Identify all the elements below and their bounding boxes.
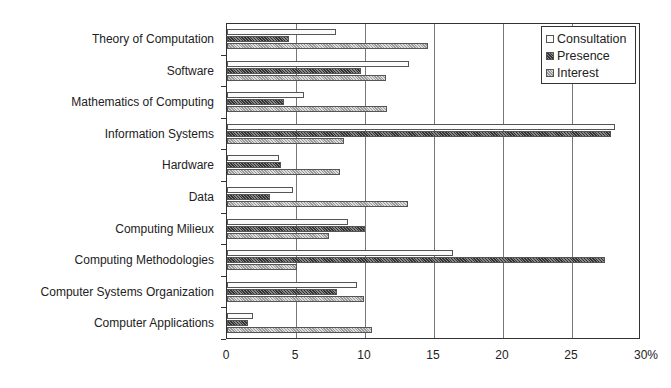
legend-item-interest: Interest: [546, 64, 631, 81]
bar-consultation: [227, 61, 409, 67]
legend-item-consultation: Consultation: [546, 30, 631, 47]
y-tick: [221, 55, 226, 56]
bar-presence: [227, 68, 361, 74]
bar-consultation: [227, 282, 357, 288]
bar-interest: [227, 296, 364, 302]
x-tick-label: 15: [426, 348, 439, 362]
gridline: [434, 24, 435, 338]
y-tick: [221, 213, 226, 214]
bar-interest: [227, 169, 340, 175]
bar-presence: [227, 194, 270, 200]
x-tick-label: 0: [223, 348, 230, 362]
bar-presence: [227, 257, 605, 263]
category-label: Information Systems: [105, 127, 214, 141]
bar-consultation: [227, 219, 348, 225]
y-tick: [221, 181, 226, 182]
legend-item-presence: Presence: [546, 47, 631, 64]
bar-interest: [227, 233, 329, 239]
x-tick-label: 30%: [634, 348, 658, 362]
bar-interest: [227, 75, 386, 81]
bar-presence: [227, 99, 284, 105]
bar-interest: [227, 43, 428, 49]
gridline: [365, 24, 366, 338]
category-label: Computing Methodologies: [75, 253, 214, 267]
x-tick-label: 5: [292, 348, 299, 362]
bar-consultation: [227, 124, 615, 130]
category-label: Theory of Computation: [92, 32, 214, 46]
legend-label: Presence: [557, 49, 610, 63]
bar-interest: [227, 201, 408, 207]
legend-label: Consultation: [557, 32, 627, 46]
bar-presence: [227, 162, 281, 168]
bar-consultation: [227, 155, 279, 161]
presence-swatch-icon: [546, 52, 554, 60]
y-tick: [221, 307, 226, 308]
y-tick: [221, 276, 226, 277]
y-tick: [221, 118, 226, 119]
legend: Consultation Presence Interest: [541, 26, 636, 84]
bar-consultation: [227, 29, 336, 35]
category-label: Software: [167, 64, 214, 78]
category-label: Computer Systems Organization: [41, 285, 214, 299]
category-label: Mathematics of Computing: [71, 95, 214, 109]
bar-consultation: [227, 92, 304, 98]
y-tick: [221, 339, 226, 340]
bar-interest: [227, 138, 344, 144]
category-label: Computer Applications: [94, 316, 214, 330]
bar-presence: [227, 320, 248, 326]
bar-interest: [227, 106, 387, 112]
bar-presence: [227, 289, 337, 295]
y-tick: [221, 149, 226, 150]
bar-presence: [227, 226, 365, 232]
consultation-swatch-icon: [546, 35, 554, 43]
bar-consultation: [227, 187, 293, 193]
bar-interest: [227, 264, 297, 270]
y-tick: [221, 244, 226, 245]
bar-presence: [227, 131, 611, 137]
category-label: Hardware: [162, 158, 214, 172]
bar-consultation: [227, 313, 253, 319]
bar-chart: Theory of ComputationSoftwareMathematics…: [0, 0, 671, 388]
category-label: Data: [189, 190, 214, 204]
x-tick-label: 10: [357, 348, 370, 362]
bar-presence: [227, 36, 289, 42]
x-tick-label: 20: [495, 348, 508, 362]
x-tick-label: 25: [564, 348, 577, 362]
legend-label: Interest: [557, 66, 599, 80]
interest-swatch-icon: [546, 69, 554, 77]
y-tick: [221, 86, 226, 87]
category-label: Computing Milieux: [115, 222, 214, 236]
gridline: [503, 24, 504, 338]
bar-consultation: [227, 250, 453, 256]
bar-interest: [227, 327, 372, 333]
